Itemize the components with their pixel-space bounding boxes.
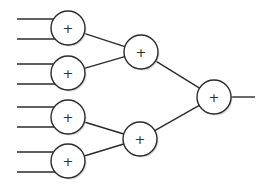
adder-node: + [123, 122, 159, 158]
connection-wire [84, 122, 123, 134]
connection-wire [84, 144, 123, 156]
plus-icon: + [136, 45, 147, 60]
adder-node: + [51, 56, 87, 92]
adder-node: + [51, 11, 87, 47]
connection-wire [155, 61, 199, 88]
connection-wire [84, 33, 125, 46]
plus-icon: + [63, 154, 74, 169]
connection-wire [84, 57, 124, 69]
connection-wire [155, 105, 199, 130]
plus-icon: + [63, 66, 74, 81]
adder-node: + [124, 35, 160, 71]
adder-nodes: +++++++ [51, 11, 233, 180]
adder-node: + [197, 80, 233, 116]
plus-icon: + [63, 21, 74, 36]
adder-tree-diagram: +++++++ [0, 0, 267, 190]
adder-node: + [51, 100, 87, 136]
plus-icon: + [63, 110, 74, 125]
plus-icon: + [209, 90, 220, 105]
plus-icon: + [135, 132, 146, 147]
adder-node: + [51, 144, 87, 180]
